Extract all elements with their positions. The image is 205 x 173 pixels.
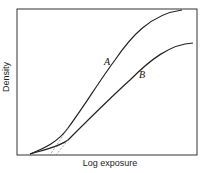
curve-b xyxy=(30,43,193,154)
plot-frame xyxy=(17,9,197,155)
chart-plot xyxy=(0,0,205,173)
tangent-b-dashed xyxy=(56,140,68,155)
curve-b-label: B xyxy=(139,69,145,80)
curve-a-label: A xyxy=(104,56,110,67)
curve-a xyxy=(30,10,182,154)
x-axis-label: Log exposure xyxy=(60,158,160,168)
y-axis-label: Density xyxy=(1,57,11,97)
